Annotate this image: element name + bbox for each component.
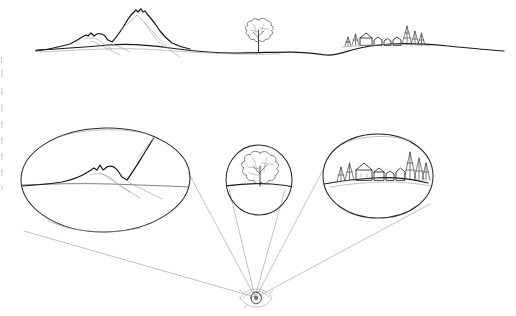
tree-canopy [245, 18, 273, 41]
magnifier-mountains-content [22, 124, 196, 199]
lens-village-conifer-3 [404, 152, 416, 180]
tree-foliage-texture-4 [260, 28, 269, 29]
lens-village-conifer-2 [345, 163, 354, 180]
lens-village-conifer-1 [337, 167, 345, 181]
eye[interactable] [240, 289, 273, 308]
lens-village-ground-echo [330, 182, 430, 187]
sight-line-village-left [256, 170, 323, 297]
lens-tree-foliage-3 [247, 167, 259, 169]
tree-foliage-texture-1 [253, 24, 256, 33]
magnifier-village-outline [323, 134, 433, 218]
eye-lash-2 [270, 290, 273, 293]
mountain-slope-tail [112, 44, 130, 52]
horizon-scene [36, 9, 504, 57]
village-house-2 [374, 37, 382, 45]
magnifier-village-content [324, 152, 430, 187]
lens-village-house-1-window [361, 174, 367, 178]
lens-mountain-shade-1 [90, 174, 130, 192]
mountain-range [36, 9, 190, 57]
village-conifer-5 [418, 33, 425, 45]
magnifier-tree[interactable] [226, 145, 294, 215]
mountain-foot-line-1 [92, 41, 120, 55]
eye-lash-3 [244, 305, 247, 308]
village-conifer-2 [352, 34, 359, 45]
eye-pupil [254, 296, 258, 300]
scene-svg [0, 0, 516, 316]
magnifier-mountains[interactable] [21, 124, 196, 232]
tree-foliage-texture-3 [250, 30, 258, 32]
mountain-foot-line-2 [145, 23, 180, 57]
village-conifer-1 [345, 37, 351, 46]
lens-tree-branch-right [260, 165, 267, 172]
sight-line-village-right [257, 204, 430, 297]
page-edge-marks [2, 57, 3, 190]
lens-village-house-3 [386, 171, 394, 180]
deciduous-tree [245, 18, 273, 52]
lens-mountain-foot-3 [128, 182, 162, 199]
lens-village-house-1 [356, 163, 372, 180]
sight-line-mountain-left [24, 231, 255, 297]
village-house-1 [360, 33, 372, 45]
eye-lash-1 [240, 290, 243, 293]
magnifier-tree-outline [226, 145, 292, 215]
magnifier-village[interactable] [323, 134, 433, 218]
tree-branch-right [259, 31, 265, 36]
lens-tree-foliage-5 [249, 173, 260, 176]
lens-tree-foliage-4 [261, 163, 273, 165]
diagram-root: Landscape horizon with three magnified s… [0, 0, 516, 316]
magnifier-mountains-outline [21, 128, 190, 232]
tree-foliage-texture-2 [262, 24, 264, 34]
sight-line-tree-left [229, 189, 255, 297]
sight-line-mountain-right [188, 172, 255, 297]
village-conifer-3 [402, 26, 412, 45]
village-conifer-4 [411, 31, 419, 45]
